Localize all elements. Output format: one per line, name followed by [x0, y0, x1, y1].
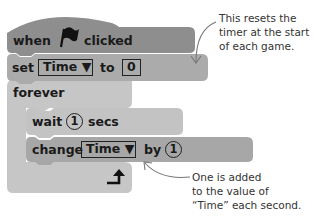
arrow-to-change-dropdown	[144, 162, 190, 177]
annotation-arrows	[0, 0, 317, 221]
arrow-to-set-block	[191, 22, 216, 63]
